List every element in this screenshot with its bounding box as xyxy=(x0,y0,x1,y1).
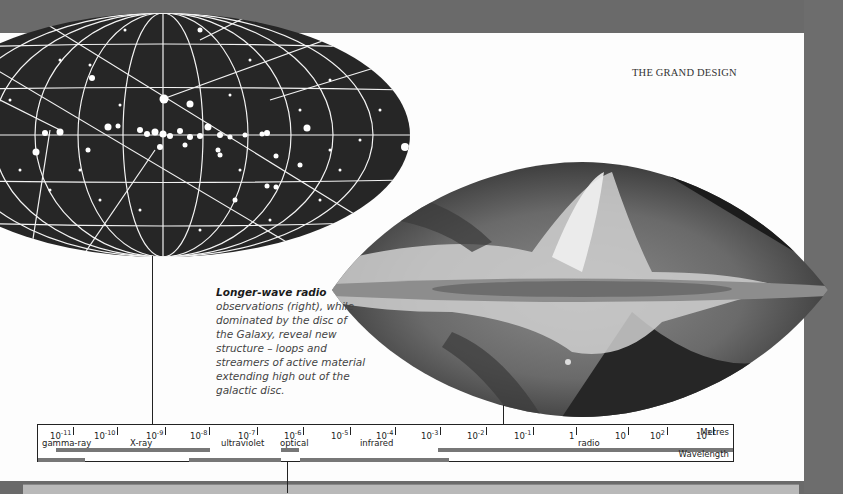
band-optical: optical xyxy=(280,438,309,448)
caption-body: observations (right), while dominated by… xyxy=(216,300,365,396)
band-x-ray: X-ray xyxy=(130,438,152,448)
band-radio: radio xyxy=(578,438,600,448)
unit-label: Metres xyxy=(700,427,729,437)
caption-leader-line-right xyxy=(503,405,504,424)
optical-leader-line xyxy=(287,460,288,493)
tick-1: 1 xyxy=(569,427,577,441)
tick-1e-1: 10-1 xyxy=(514,427,534,441)
wavelength-scale: 10-11 10-10 10-9 10-8 10-7 10-6 10-5 10-… xyxy=(37,424,734,462)
band-gamma-ray: gamma-ray xyxy=(42,438,91,448)
tick-1e-2: 10-2 xyxy=(467,427,487,441)
band-ultraviolet: ultraviolet xyxy=(221,438,264,448)
caption-leader-line-left xyxy=(152,256,153,424)
caption-lead: Longer-wave radio xyxy=(216,286,327,298)
bar-ultraviolet xyxy=(189,458,281,462)
tick-1e-10: 10-10 xyxy=(94,427,118,441)
all-sky-radio-map xyxy=(332,162,828,417)
running-head: THE GRAND DESIGN xyxy=(632,67,737,78)
axis-label-wavelength: Wavelength xyxy=(679,449,729,459)
bar-x-ray xyxy=(56,448,210,452)
tick-1e-5: 10-5 xyxy=(331,427,351,441)
tick-1e2: 102 xyxy=(650,427,668,441)
bar-infrared xyxy=(300,458,449,462)
band-infrared: infrared xyxy=(360,438,393,448)
tick-1e-3: 10-3 xyxy=(421,427,441,441)
bar-gamma-ray xyxy=(38,458,85,462)
bottom-panel xyxy=(23,484,799,494)
tick-10: 10 xyxy=(615,427,629,441)
tick-1e-8: 10-8 xyxy=(190,427,210,441)
figure-caption: Longer-wave radio observations (right), … xyxy=(216,285,366,397)
bar-optical xyxy=(281,448,299,452)
